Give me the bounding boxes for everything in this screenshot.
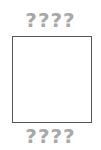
- bottom-question-marks: ????: [0, 126, 101, 146]
- top-question-marks: ????: [0, 10, 101, 30]
- blank-frame: [12, 36, 92, 123]
